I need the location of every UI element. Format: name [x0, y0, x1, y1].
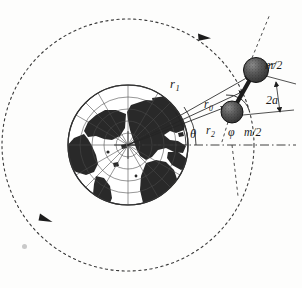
- label-mass-lower: m/2: [244, 127, 261, 139]
- diagram-canvas: [0, 0, 302, 288]
- orbit-diagram: r1 r0 r2 θ φ m/2 m/2 2a: [0, 0, 302, 288]
- mass-lower-sphere: [221, 101, 243, 123]
- earth-globe: [64, 85, 188, 214]
- scan-speck: [22, 244, 27, 249]
- label-theta: θ: [190, 128, 196, 141]
- label-r1: r1: [170, 78, 180, 92]
- mass-upper-sphere: [234, 58, 269, 109]
- orbit-direction-arrow-top: [198, 34, 211, 41]
- orbit-direction-arrow-lower-left: [39, 214, 53, 223]
- label-r0: r0: [204, 99, 213, 112]
- label-r2: r2: [206, 125, 215, 138]
- label-mass-upper: m/2: [265, 60, 282, 72]
- label-phi: φ: [228, 126, 235, 138]
- label-separation-2a: 2a: [266, 94, 278, 106]
